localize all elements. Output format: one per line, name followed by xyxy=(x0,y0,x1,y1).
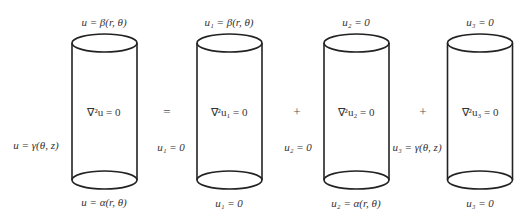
original-side-condition: u = γ(θ, z) xyxy=(13,139,58,151)
u3-bottom-condition: u₃ = 0 xyxy=(466,197,494,209)
u2-bottom-condition: u₂ = α(r, θ) xyxy=(331,197,380,209)
original-laplace-equation: ∇²u = 0 xyxy=(87,106,120,119)
u3-laplace-equation: ∇²u₃ = 0 xyxy=(462,106,499,119)
original-bottom-condition: u = α(r, θ) xyxy=(81,196,127,208)
plus-operator-2: + xyxy=(419,104,426,120)
u2-top-condition: u₂ = 0 xyxy=(342,16,370,28)
u1-top-condition: u₁ = β(r, θ) xyxy=(204,16,253,28)
u1-side-condition: u₁ = 0 xyxy=(157,141,185,153)
cylinder-drawings xyxy=(0,0,527,220)
u1-bottom-condition: u₁ = 0 xyxy=(215,197,243,209)
original-top-condition: u = β(r, θ) xyxy=(81,16,126,28)
u2-side-condition: u₂ = 0 xyxy=(284,141,312,153)
u2-laplace-equation: ∇²u₂ = 0 xyxy=(338,106,375,119)
plus-operator-1: + xyxy=(293,104,300,120)
equals-operator: = xyxy=(163,104,170,120)
u3-side-condition: u₃ = γ(θ, z) xyxy=(391,141,442,153)
u1-laplace-equation: ∇²u₁ = 0 xyxy=(211,106,248,119)
u3-top-condition: u₃ = 0 xyxy=(466,16,494,28)
